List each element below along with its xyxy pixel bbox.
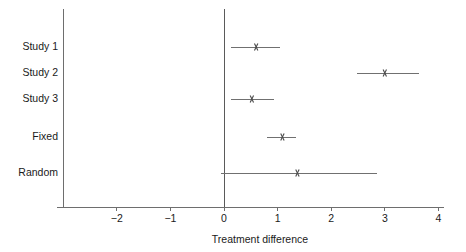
x-tick-label-6: 4 — [435, 212, 441, 224]
row-label-1: Study 2 — [22, 66, 58, 78]
x-tick-label-3: 1 — [275, 212, 281, 224]
row-label-3: Fixed — [32, 130, 58, 142]
x-axis-title-text: Treatment difference — [212, 233, 308, 245]
axes-group — [57, 9, 444, 207]
x-tick-label-0: −2 — [111, 212, 123, 224]
x-tick-label-1: −1 — [164, 212, 176, 224]
row-label-4: Random — [18, 166, 58, 178]
row-label-2: Study 3 — [22, 92, 58, 104]
x-axis-ticks — [117, 207, 439, 211]
forest-plot: −2−101234 Study 1Study 2Study 3FixedRand… — [0, 0, 466, 252]
plot-canvas: −2−101234 Study 1Study 2Study 3FixedRand… — [0, 0, 466, 252]
forest-rows — [221, 44, 418, 177]
x-tick-label-4: 2 — [328, 212, 334, 224]
x-tick-label-5: 3 — [382, 212, 388, 224]
row-label-0: Study 1 — [22, 40, 58, 52]
x-tick-label-2: 0 — [221, 212, 227, 224]
x-axis-title: Treatment difference — [212, 233, 308, 245]
x-axis-tick-labels: −2−101234 — [111, 212, 442, 224]
row-labels: Study 1Study 2Study 3FixedRandom — [18, 40, 58, 178]
